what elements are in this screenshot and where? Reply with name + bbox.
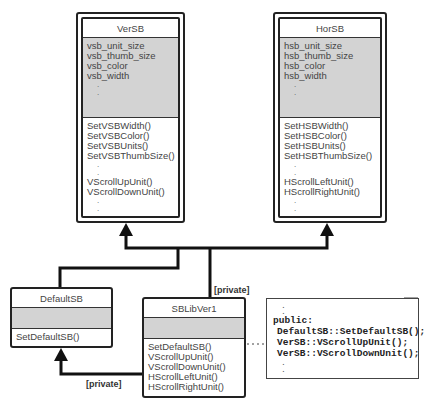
method: HScrollRightUnit() [148,382,240,392]
methods-compartment: SetDefaultSB() VScrollUpUnit() VScrollDo… [144,339,244,392]
inheritance-arrow-defaultsb-icon [54,348,68,361]
private-label-top: [private] [214,285,250,295]
methods-compartment: SetDefaultSB() [12,329,111,342]
private-label-bottom: [private] [86,379,122,389]
attribute: vsb_width [87,71,174,81]
ellipsis: . [284,89,376,97]
class-sblibver1[interactable]: SBLibVer1 SetDefaultSB() VScrollUpUnit()… [142,297,246,398]
note-line: DefaultSB::SetDefaultSB(); [273,326,412,337]
method: SetHSBThumbSize() [284,151,376,161]
attributes-compartment: vsb_unit_size vsb_thumb_size vsb_color v… [83,38,178,118]
methods-compartment: SetHSBWidth() SetHSBColor() SetHSBUnits(… [280,118,380,213]
ellipsis: . [87,197,174,205]
class-horsb[interactable]: HorSB hsb_unit_size hsb_thumb_size hsb_c… [273,12,387,223]
ellipsis: . [284,81,376,89]
class-versb[interactable]: VerSB vsb_unit_size vsb_thumb_size vsb_c… [76,12,185,223]
ellipsis: . [284,205,376,213]
class-name: VerSB [83,19,178,38]
class-name: HorSB [280,19,380,38]
attribute: hsb_width [284,71,376,81]
class-defaultsb[interactable]: DefaultSB SetDefaultSB() [10,287,113,348]
ellipsis: . [273,366,412,373]
ellipsis: . [87,89,174,97]
method: HScrollRightUnit() [284,187,376,197]
inheritance-arrow-horsb-icon [320,223,334,236]
method: SetDefaultSB() [16,332,107,342]
inheritance-arrow-versb-icon [119,223,133,236]
class-horsb-inner: HorSB hsb_unit_size hsb_thumb_size hsb_c… [278,17,382,218]
note-line: VerSB::VScrollUpUnit(); [273,337,412,348]
class-versb-inner: VerSB vsb_unit_size vsb_thumb_size vsb_c… [81,17,180,218]
ellipsis: . [284,161,376,169]
attributes-compartment [144,318,244,339]
methods-compartment: SetVSBWidth() SetVSBColor() SetVSBUnits(… [83,118,178,213]
class-name: DefaultSB [12,289,111,308]
ellipsis: . [87,205,174,213]
ellipsis: . [284,197,376,205]
method: SetVSBThumbSize() [87,151,174,161]
note-line: VerSB::VScrollDownUnit(); [273,348,412,359]
ellipsis: . [273,359,412,366]
ellipsis: . [87,81,174,89]
attributes-compartment [12,308,111,329]
ellipsis: . [87,161,174,169]
class-name: SBLibVer1 [144,299,244,318]
note-public-methods: . . public: DefaultSB::SetDefaultSB(); V… [266,298,419,379]
note-keyword: public: [273,315,412,326]
attributes-compartment: hsb_unit_size hsb_thumb_size hsb_color h… [280,38,380,118]
method: VScrollDownUnit() [87,187,174,197]
